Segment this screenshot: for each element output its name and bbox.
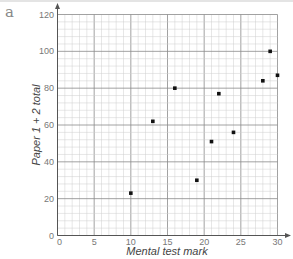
data-point [232, 131, 236, 135]
y-tick-label: 80 [44, 83, 54, 93]
x-axis-label: Mental test mark [126, 245, 208, 257]
x-tick-label: 0 [57, 237, 62, 247]
x-tick-label: 25 [236, 237, 246, 247]
data-point [129, 191, 133, 195]
y-tick-label: 120 [39, 10, 54, 20]
grid-lines [58, 15, 278, 236]
x-tick-label: 5 [92, 237, 97, 247]
y-tick-label: 100 [39, 46, 54, 56]
y-tick-label: 0 [49, 231, 54, 241]
x-tick-label: 30 [272, 237, 282, 247]
scatter-chart: 051015202530 020406080100120 Mental test… [0, 0, 293, 259]
data-point [217, 92, 221, 96]
y-tick-label: 40 [44, 157, 54, 167]
y-axis-label: Paper 1 + 2 total [30, 84, 42, 166]
data-point [173, 86, 177, 90]
data-point [261, 79, 265, 83]
data-point [151, 120, 155, 124]
data-point [268, 50, 272, 54]
data-point [195, 178, 199, 182]
data-point [276, 73, 280, 77]
data-point [210, 140, 214, 144]
y-tick-label: 60 [44, 120, 54, 130]
y-tick-label: 20 [44, 194, 54, 204]
